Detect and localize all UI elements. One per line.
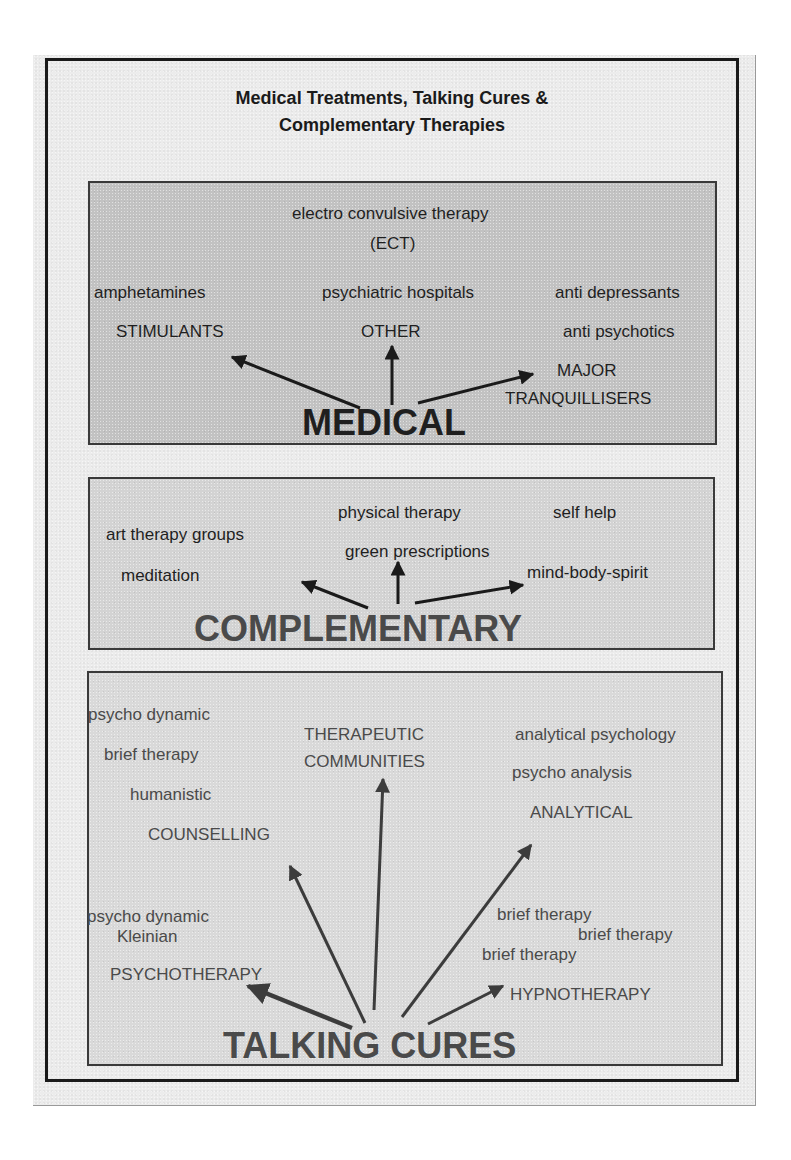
diagram-title: Medical Treatments, Talking Cures & Comp…	[45, 85, 739, 139]
analytical-label: ANALYTICAL	[530, 803, 633, 823]
hypnotherapy-label: HYPNOTHERAPY	[510, 985, 651, 1005]
humanistic-label: humanistic	[130, 785, 211, 805]
kleinian-label: Kleinian	[117, 927, 178, 947]
brief-therapy-label: brief therapy	[104, 745, 199, 765]
ect-label-line2: (ECT)	[370, 234, 415, 254]
medical-heading: MEDICAL	[302, 404, 466, 442]
brief-therapy-2-label: brief therapy	[497, 905, 592, 925]
meditation-label: meditation	[121, 566, 199, 586]
other-label: OTHER	[361, 322, 421, 342]
major-label: MAJOR	[557, 361, 617, 381]
anti-psychotics-label: anti psychotics	[563, 322, 675, 342]
psycho-analysis-label: psycho analysis	[512, 763, 632, 783]
complementary-heading: COMPLEMENTARY	[194, 610, 522, 648]
psychiatric-hospitals-label: psychiatric hospitals	[322, 283, 474, 303]
title-line-2: Complementary Therapies	[45, 112, 739, 139]
psychotherapy-label: PSYCHOTHERAPY	[110, 965, 262, 985]
self-help-label: self help	[553, 503, 616, 523]
brief-therapy-3-label: brief therapy	[578, 925, 673, 945]
title-line-1: Medical Treatments, Talking Cures &	[45, 85, 739, 112]
green-prescriptions-label: green prescriptions	[345, 542, 490, 562]
stimulants-label: STIMULANTS	[116, 322, 224, 342]
psycho-dynamic-2-label: psycho dynamic	[87, 907, 209, 927]
mind-body-spirit-label: mind-body-spirit	[527, 563, 648, 583]
physical-therapy-label: physical therapy	[338, 503, 461, 523]
ect-label-line1: electro convulsive therapy	[292, 204, 489, 224]
therapeutic-label: THERAPEUTIC	[304, 725, 424, 745]
art-therapy-groups-label: art therapy groups	[106, 525, 244, 545]
communities-label: COMMUNITIES	[304, 752, 425, 772]
analytical-psychology-label: analytical psychology	[515, 725, 676, 745]
counselling-label: COUNSELLING	[148, 825, 270, 845]
brief-therapy-4-label: brief therapy	[482, 945, 577, 965]
tranquillisers-label: TRANQUILLISERS	[505, 389, 651, 409]
amphetamines-label: amphetamines	[94, 283, 206, 303]
anti-depressants-label: anti depressants	[555, 283, 680, 303]
talking-cures-heading: TALKING CURES	[223, 1027, 516, 1065]
psycho-dynamic-label: psycho dynamic	[88, 705, 210, 725]
